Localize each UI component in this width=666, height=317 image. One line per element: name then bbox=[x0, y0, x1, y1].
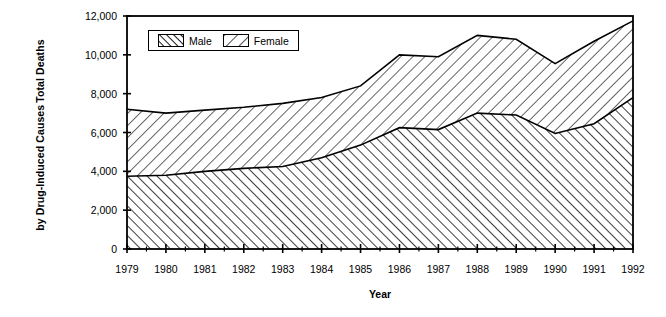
legend-label-female: Female bbox=[254, 35, 289, 47]
x-axis-tick-label: 1980 bbox=[154, 263, 177, 275]
legend-item-female: Female bbox=[223, 34, 289, 47]
legend-label-male: Male bbox=[189, 35, 212, 47]
x-axis-tick-label: 1985 bbox=[349, 263, 372, 275]
x-axis-tick-label: 1979 bbox=[115, 263, 138, 275]
x-axis-tick-label: 1986 bbox=[388, 263, 411, 275]
legend-swatch-male bbox=[158, 34, 184, 47]
chart-figure: by Drug-Induced Causes Total Deaths 02,0… bbox=[0, 0, 666, 317]
legend-item-male: Male bbox=[158, 34, 212, 47]
x-axis-tick-labels: 1979198019811982198319841985198619871988… bbox=[0, 0, 666, 317]
x-axis-tick-label: 1982 bbox=[232, 263, 255, 275]
x-axis-tick-label: 1992 bbox=[621, 263, 644, 275]
x-axis-tick-label: 1991 bbox=[582, 263, 605, 275]
legend-swatch-female bbox=[223, 34, 249, 47]
x-axis-tick-label: 1983 bbox=[271, 263, 294, 275]
x-axis-tick-label: 1987 bbox=[427, 263, 450, 275]
x-axis-tick-label: 1981 bbox=[193, 263, 216, 275]
chart-legend: Male Female bbox=[148, 30, 299, 51]
x-axis-tick-label: 1984 bbox=[310, 263, 333, 275]
x-axis-tick-label: 1990 bbox=[543, 263, 566, 275]
x-axis-title: Year bbox=[369, 288, 391, 300]
x-axis-tick-label: 1989 bbox=[505, 263, 528, 275]
x-axis-tick-label: 1988 bbox=[466, 263, 489, 275]
